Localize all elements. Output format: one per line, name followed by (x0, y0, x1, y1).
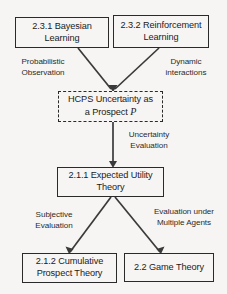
diagram-canvas: 2.3.1 BayesianLearning 2.3.2 Reinforceme… (0, 0, 227, 294)
prospect-symbol: P (130, 106, 136, 117)
node-expected-utility-theory[interactable]: 2.1.1 Expected UtilityTheory (57, 167, 164, 197)
node-bayesian-learning[interactable]: 2.3.1 BayesianLearning (15, 17, 109, 48)
node-reinforcement-learning-label: 2.3.2 ReinforcementLearning (116, 20, 206, 43)
node-hcps-uncertainty-prospect[interactable]: HCPS Uncertainty asa Prospect P (58, 91, 163, 122)
node-cumulative-prospect-theory[interactable]: 2.1.2 CumulativeProspect Theory (22, 253, 117, 283)
edge-label-probabilistic-observation: ProbabilisticObservation (10, 57, 76, 78)
edge-label-subjective-evaluation: SubjectiveEvaluation (22, 210, 86, 231)
edge-label-uncertainty-evaluation: UncertaintyEvaluation (116, 130, 182, 151)
node-hcps-uncertainty-prospect-label: HCPS Uncertainty asa Prospect P (61, 94, 160, 118)
edge-label-evaluation-multiple-agents: Evaluation underMultiple Agents (142, 207, 226, 228)
node-game-theory-label: 2.2 Game Theory (127, 262, 211, 274)
edge-label-dynamic-interactions: Dynamicinteractions (152, 57, 220, 78)
edge-bayesian-to-hcps (78, 48, 111, 89)
node-cumulative-prospect-theory-label: 2.1.2 CumulativeProspect Theory (25, 256, 114, 279)
node-bayesian-learning-label: 2.3.1 BayesianLearning (18, 21, 106, 44)
node-game-theory[interactable]: 2.2 Game Theory (124, 253, 214, 282)
node-reinforcement-learning[interactable]: 2.3.2 ReinforcementLearning (113, 15, 209, 48)
node-expected-utility-theory-label: 2.1.1 Expected UtilityTheory (60, 170, 161, 193)
